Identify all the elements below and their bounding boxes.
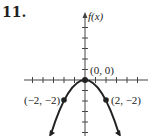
label-neg2-neg2: (−2, −2) xyxy=(24,94,61,107)
y-axis-arrow-icon xyxy=(83,12,88,18)
label-origin: (0, 0) xyxy=(90,64,114,77)
label-2-neg2: (2, −2) xyxy=(111,94,141,107)
point-2-neg2 xyxy=(103,97,109,103)
parabola-graph: f(x) (0, 0) (−2, −2) (2, −2) xyxy=(0,0,148,136)
y-axis-label: f(x) xyxy=(88,10,104,23)
point-origin xyxy=(82,77,88,83)
point-neg2-neg2 xyxy=(61,97,67,103)
